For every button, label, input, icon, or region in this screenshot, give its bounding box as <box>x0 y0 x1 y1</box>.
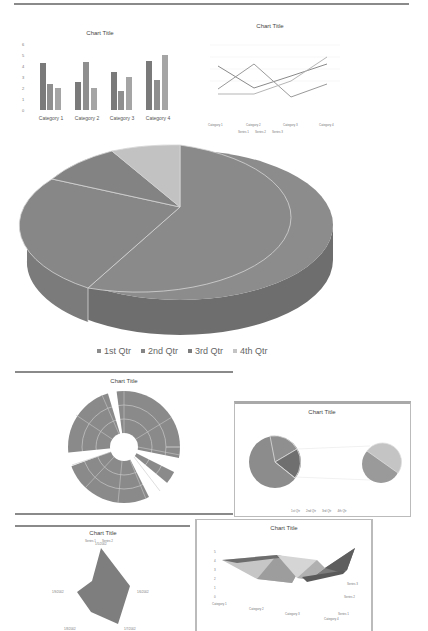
radar-chart: Chart Title Series 1 Series 2 1/5/2002 1… <box>0 526 190 631</box>
x-label: Category 2 <box>246 123 261 127</box>
x-label: Category 3 <box>104 115 140 121</box>
x-label: Category 2 <box>69 115 105 121</box>
legend-item-q2: 2nd Qtr <box>141 346 178 356</box>
surface-y-tick: 4 <box>214 559 216 563</box>
surface-y-tick: 1 <box>214 586 216 590</box>
top-rule <box>14 3 409 5</box>
legend-item-q3: 3rd Qtr <box>188 346 223 356</box>
legend-swatch-icon <box>141 349 145 353</box>
surface-y-tick: 3 <box>214 568 216 572</box>
sunburst-plot <box>0 372 232 512</box>
legend-item: Series 3 <box>272 130 283 134</box>
legend-swatch-icon <box>188 349 192 353</box>
surface-y-tick: 0 <box>214 595 216 599</box>
surface-y-tick: 5 <box>214 550 216 554</box>
pie-of-pie-chart: Chart Title 1st Qtr 2nd Qtr 3rd Qtr 4th … <box>234 401 411 517</box>
radar-axis-label: 1/5/2002 <box>95 542 107 546</box>
x-label: Category 3 <box>283 123 298 127</box>
legend-label: 1st Qtr <box>104 346 131 356</box>
legend-swatch-icon <box>97 349 101 353</box>
x-label: Category 3 <box>285 612 300 616</box>
series-label: Series 1 <box>338 612 349 616</box>
section-rule <box>15 513 233 515</box>
line-plot <box>190 10 350 130</box>
legend-swatch-icon <box>233 349 237 353</box>
line-chart: Chart Title Category 1 Category 2 Catego… <box>190 10 350 130</box>
radar-axis-label: 1/6/2002 <box>137 590 149 594</box>
legend-item: Series 2 <box>255 130 266 134</box>
x-label: Category 2 <box>249 607 264 611</box>
legend-label: 3rd Qtr <box>195 346 223 356</box>
radar-axis-label: 1/7/2002 <box>124 627 136 631</box>
column-plot <box>0 20 190 130</box>
line-legend: Series 1 Series 2 Series 3 <box>238 130 283 134</box>
legend-item: 2nd Qtr <box>306 509 316 513</box>
radar-axis-label: 1/8/2002 <box>64 627 76 631</box>
surface-y-tick: 2 <box>214 577 216 581</box>
sunburst-chart: Chart Title <box>0 372 232 512</box>
series-label: Series 2 <box>344 595 355 599</box>
legend-label: 4th Qtr <box>240 346 268 356</box>
x-label: Category 4 <box>324 617 339 621</box>
pie-3d-legend: 1st Qtr 2nd Qtr 3rd Qtr 4th Qtr <box>97 346 268 356</box>
radar-axis-label: 1/9/2002 <box>52 590 64 594</box>
legend-item: 3rd Qtr <box>322 509 331 513</box>
x-label: Category 1 <box>212 602 227 606</box>
x-label: Category 4 <box>140 115 176 121</box>
pie-of-pie-plot <box>235 404 412 520</box>
legend-item: Series 1 <box>238 130 249 134</box>
legend-item: 1st Qtr <box>291 509 300 513</box>
legend-item-q1: 1st Qtr <box>97 346 131 356</box>
legend-item: 4th Qtr <box>337 509 346 513</box>
pie-of-pie-legend: 1st Qtr 2nd Qtr 3rd Qtr 4th Qtr <box>291 509 347 513</box>
pie-3d-plot <box>0 135 428 365</box>
column-chart: Chart Title 6 5 4 3 2 1 0 Category 1 Cat… <box>0 20 190 130</box>
x-label: Category 1 <box>208 123 223 127</box>
x-label: Category 1 <box>33 115 69 121</box>
legend-item-q4: 4th Qtr <box>233 346 268 356</box>
legend-label: 2nd Qtr <box>148 346 178 356</box>
surface-chart: Chart Title 5 4 3 2 1 0 Category 1 Categ… <box>195 519 373 631</box>
pie-3d-chart: 1st Qtr 2nd Qtr 3rd Qtr 4th Qtr <box>0 135 428 365</box>
x-label: Category 4 <box>319 123 334 127</box>
series-label: Series 3 <box>347 582 358 586</box>
